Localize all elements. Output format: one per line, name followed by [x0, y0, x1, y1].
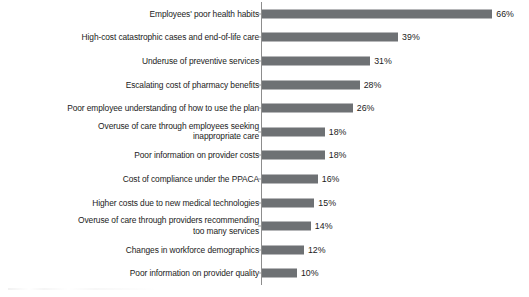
category-label: Escalating cost of pharmacy benefits	[9, 79, 259, 90]
category-label: Employees' poor health habits	[9, 9, 259, 20]
category-label: Poor information on provider quality	[9, 268, 259, 279]
axis-tick	[258, 108, 261, 109]
bar	[262, 104, 353, 113]
bar-value-label: 28%	[364, 80, 382, 89]
axis-tick	[258, 249, 261, 250]
bar-row: Overuse of care through employees seekin…	[0, 120, 529, 144]
bar-value-label: 18%	[329, 127, 347, 136]
plot-area: Employees' poor health habits66%High-cos…	[0, 0, 529, 297]
bar-value-label: 31%	[374, 56, 392, 65]
bar-value-label: 10%	[301, 269, 319, 278]
bar-row: Cost of compliance under the PPACA16%	[0, 167, 529, 191]
bar-value-label: 15%	[318, 198, 336, 207]
category-label: Higher costs due to new medical technolo…	[9, 197, 259, 208]
bar-chart: Employees' poor health habits66%High-cos…	[0, 0, 529, 297]
axis-tick	[258, 178, 261, 179]
category-label: Overuse of care through providers recomm…	[9, 216, 259, 237]
axis-tick	[258, 155, 261, 156]
axis-tick	[258, 60, 261, 61]
bar	[262, 56, 370, 65]
axis-tick	[258, 131, 261, 132]
bar-value-label: 26%	[357, 104, 375, 113]
bar-value-label: 39%	[402, 33, 420, 42]
bar-value-label: 12%	[308, 245, 326, 254]
category-label: Poor information on provider costs	[9, 150, 259, 161]
bar-row: Poor information on provider costs18%	[0, 144, 529, 168]
bar	[262, 127, 325, 136]
axis-tick	[258, 202, 261, 203]
axis-tick	[258, 273, 261, 274]
category-label: High-cost catastrophic cases and end-of-…	[9, 32, 259, 43]
bar-row: Changes in workforce demographics12%	[0, 238, 529, 262]
bar-row: Poor information on provider quality10%	[0, 262, 529, 286]
bar	[262, 151, 325, 160]
bar-row: Underuse of preventive services31%	[0, 49, 529, 73]
bar-row: Higher costs due to new medical technolo…	[0, 191, 529, 215]
axis-tick	[258, 84, 261, 85]
bar-value-label: 14%	[315, 222, 333, 231]
bar	[262, 80, 360, 89]
axis-tick	[258, 226, 261, 227]
scan-artifact	[8, 288, 158, 290]
bar-value-label: 18%	[329, 151, 347, 160]
bar-value-label: 16%	[322, 174, 340, 183]
bar-row: Escalating cost of pharmacy benefits28%	[0, 73, 529, 97]
category-label: Poor employee understanding of how to us…	[9, 103, 259, 114]
bar-row: Poor employee understanding of how to us…	[0, 96, 529, 120]
axis-tick	[258, 13, 261, 14]
bar	[262, 198, 314, 207]
category-label: Changes in workforce demographics	[9, 245, 259, 256]
category-label: Overuse of care through employees seekin…	[9, 121, 259, 142]
bar	[262, 174, 318, 183]
axis-tick	[258, 37, 261, 38]
bar-value-label: 66%	[496, 9, 514, 18]
bar-row: Employees' poor health habits66%	[0, 2, 529, 26]
bar-row: High-cost catastrophic cases and end-of-…	[0, 26, 529, 50]
bar	[262, 222, 311, 231]
category-label: Cost of compliance under the PPACA	[9, 174, 259, 185]
bar	[262, 245, 304, 254]
bar-row: Overuse of care through providers recomm…	[0, 214, 529, 238]
bar	[262, 269, 297, 278]
category-label: Underuse of preventive services	[9, 56, 259, 67]
bar	[262, 33, 398, 42]
bar	[262, 9, 492, 18]
